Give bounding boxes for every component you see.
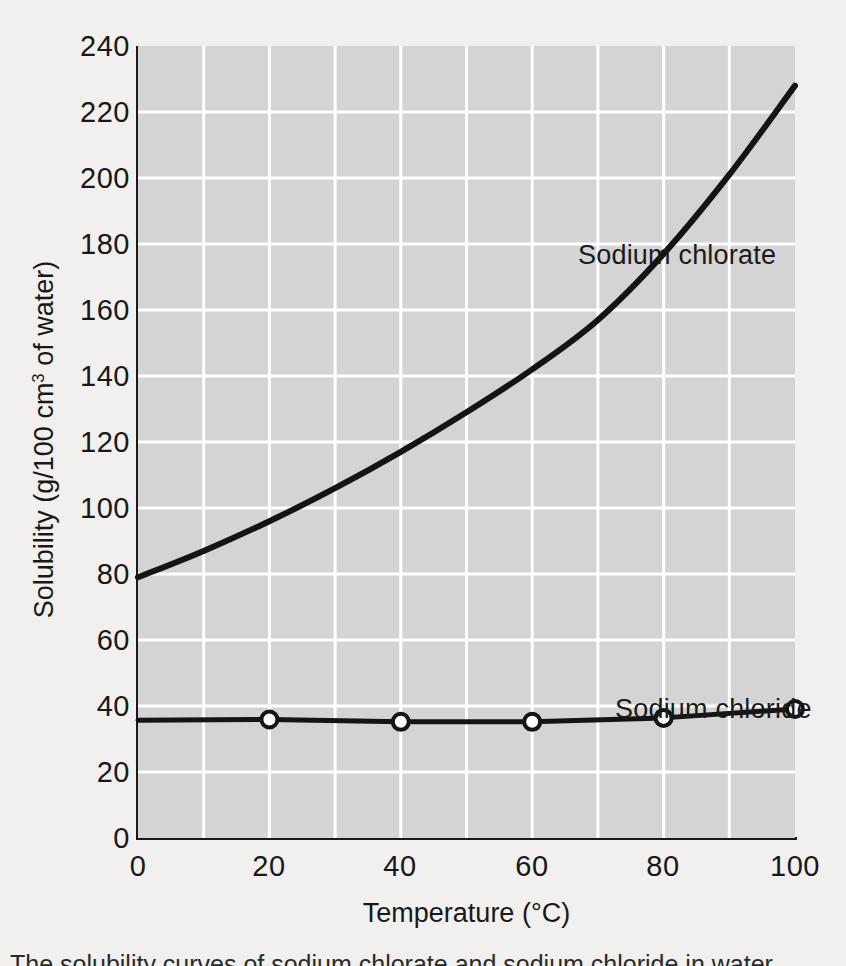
x-tick-20: 20 — [209, 852, 329, 881]
series-label-sodium-chloride: Sodium chloride — [615, 694, 812, 725]
y-tick-240: 240 — [4, 32, 130, 61]
y-axis-title-superscript: 3 — [29, 373, 48, 382]
y-axis-title-main: Solubility (g/100 cm — [29, 383, 59, 619]
y-tick-160: 160 — [4, 296, 130, 325]
series-line-sodium-chlorate — [138, 86, 795, 578]
data-point-marker — [524, 714, 540, 730]
data-point-marker — [261, 712, 277, 728]
y-tick-0: 0 — [4, 824, 130, 853]
y-axis-title-tail: of water) — [29, 261, 59, 374]
y-tick-220: 220 — [4, 98, 130, 127]
y-axis-title: Solubility (g/100 cm3 of water) — [29, 120, 60, 760]
y-tick-140: 140 — [4, 362, 130, 391]
y-tick-180: 180 — [4, 230, 130, 259]
x-tick-60: 60 — [472, 852, 592, 881]
y-tick-40: 40 — [4, 692, 130, 721]
y-tick-60: 60 — [4, 626, 130, 655]
x-tick-40: 40 — [340, 852, 460, 881]
y-tick-120: 120 — [4, 428, 130, 457]
x-tick-0: 0 — [78, 852, 198, 881]
solubility-chart-figure: 240 220 200 180 160 140 120 100 80 60 40… — [0, 0, 846, 966]
plot-area: Sodium chlorate Sodium chloride — [138, 46, 795, 838]
y-tick-100: 100 — [4, 494, 130, 523]
data-point-marker — [393, 714, 409, 730]
x-tick-100: 100 — [735, 852, 846, 881]
series-label-sodium-chlorate: Sodium chlorate — [578, 240, 776, 271]
y-tick-200: 200 — [4, 164, 130, 193]
x-tick-80: 80 — [603, 852, 723, 881]
figure-caption: The solubility curves of sodium chlorate… — [10, 949, 836, 966]
x-axis-title: Temperature (°C) — [138, 898, 795, 929]
y-axis-tick-labels: 240 220 200 180 160 140 120 100 80 60 40… — [0, 0, 130, 966]
y-tick-80: 80 — [4, 560, 130, 589]
y-tick-20: 20 — [4, 758, 130, 787]
